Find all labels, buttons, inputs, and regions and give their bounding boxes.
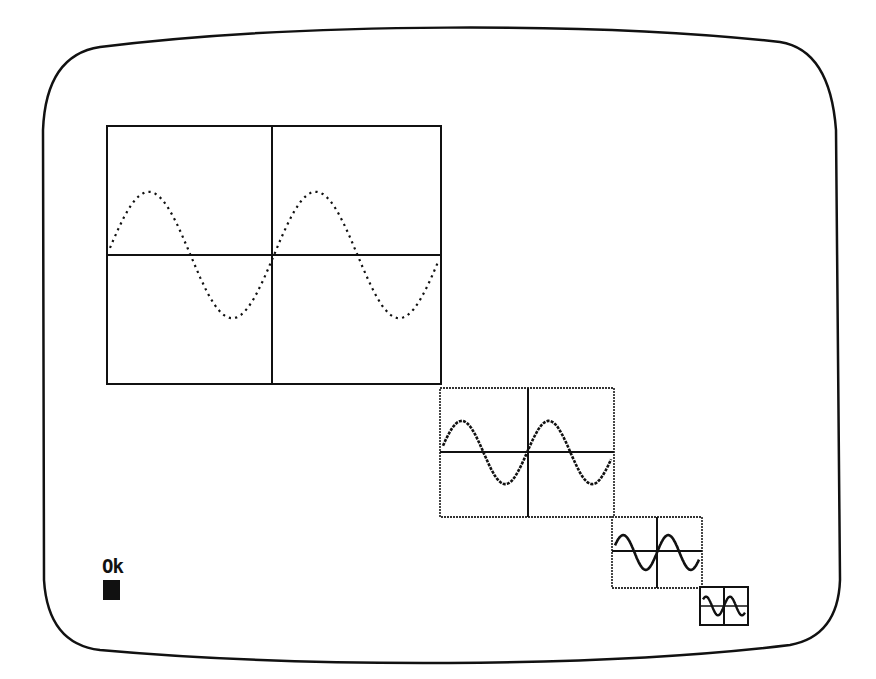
ok-prompt: Ok [102, 557, 123, 576]
block-cursor-icon [103, 580, 120, 600]
plot-3 [612, 517, 702, 588]
crt-screen [0, 0, 876, 679]
plot-1 [107, 126, 441, 384]
plot-2 [440, 388, 614, 517]
plot-4 [700, 587, 748, 625]
